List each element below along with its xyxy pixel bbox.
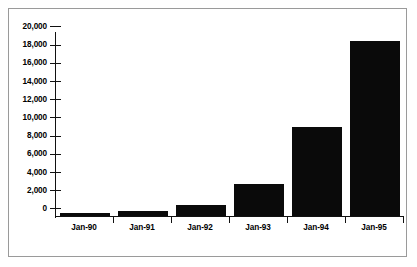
y-axis-tick-label: 0 — [9, 204, 47, 213]
y-axis-tick — [50, 26, 61, 27]
y-axis-tick-label: 16,000 — [9, 58, 47, 67]
bar — [292, 127, 342, 216]
bar — [350, 41, 400, 216]
y-axis-tick-label: 8,000 — [9, 131, 47, 140]
y-axis-tick-label: 14,000 — [9, 77, 47, 86]
x-axis-tick — [287, 216, 288, 223]
bar — [60, 213, 110, 216]
x-axis-tick-label: Jan-95 — [345, 223, 403, 232]
x-axis-tick-label: Jan-94 — [287, 223, 345, 232]
y-axis-tick-label: 18,000 — [9, 40, 47, 49]
x-axis-tick — [171, 216, 172, 223]
x-axis-tick — [229, 216, 230, 223]
bar — [176, 205, 226, 216]
y-axis-tick-label: 2,000 — [9, 186, 47, 195]
y-axis-tick-label: 20,000 — [9, 22, 47, 31]
y-axis-tick-label: 12,000 — [9, 95, 47, 104]
x-axis-tick-label: Jan-90 — [55, 223, 113, 232]
x-axis-tick — [403, 216, 404, 223]
chart-frame: 20,00018,00016,00014,00012,00010,0008,00… — [8, 8, 407, 257]
y-axis-tick-label: 6,000 — [9, 149, 47, 158]
plot-area — [56, 34, 404, 216]
bar — [234, 184, 284, 216]
bar — [118, 211, 168, 216]
x-axis-tick — [345, 216, 346, 223]
x-axis-tick-label: Jan-93 — [229, 223, 287, 232]
x-axis-tick-label: Jan-91 — [113, 223, 171, 232]
x-axis-tick — [113, 216, 114, 223]
y-axis-tick-label: 10,000 — [9, 113, 47, 122]
y-axis-tick-label: 4,000 — [9, 168, 47, 177]
x-axis-tick-label: Jan-92 — [171, 223, 229, 232]
